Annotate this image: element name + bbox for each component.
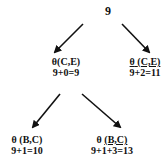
node-label: θ (B,C) (91, 134, 133, 145)
root-value: 9 (105, 4, 111, 18)
node-theta-bc: θ (B,C) 9+1=10 (11, 134, 42, 156)
edge-root-to-left (55, 24, 83, 52)
node-label: θ (B,C) (11, 134, 42, 145)
node-theta-ce: θ(C,E) 9+0=9 (52, 56, 80, 78)
edge-root-to-right (122, 24, 149, 52)
theta-symbol: θ (12, 134, 17, 145)
edge-left-to-rightleaf (82, 94, 120, 127)
node-label: θ(C,E) (52, 56, 80, 67)
theta-symbol: θ (97, 134, 102, 145)
node-args: (C,E) (137, 56, 160, 67)
node-cost: 9+0=9 (52, 67, 80, 78)
node-args: (B,C) (19, 134, 42, 145)
node-cost: 9+1=10 (11, 145, 42, 156)
search-tree-diagram: 9 θ(C,E) 9+0=9 θ (C,E) 9+2=11 θ (B,C) 9+… (0, 0, 168, 164)
node-label: θ (C,E) (130, 56, 161, 67)
theta-symbol: θ (130, 56, 135, 67)
node-cost: 9+2=11 (130, 67, 161, 78)
root-node: 9 (105, 6, 111, 17)
node-theta-bc-underlined: θ (B,C) 9+1+3=13 (91, 134, 133, 156)
node-cost: 9+1+3=13 (91, 145, 133, 156)
node-args: (C,E) (57, 56, 80, 67)
node-args: (B,C) (104, 134, 127, 145)
node-theta-ce-underlined: θ (C,E) 9+2=11 (130, 56, 161, 78)
edge-left-to-leftleaf (33, 94, 60, 127)
